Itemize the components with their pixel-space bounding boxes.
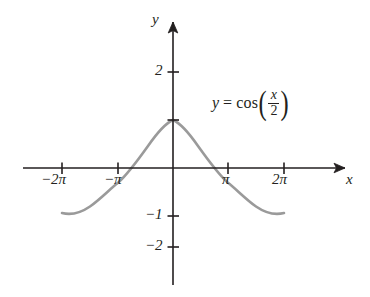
y-tick-label-2: 2 bbox=[155, 63, 163, 78]
equation-fraction: x 2 bbox=[268, 88, 279, 118]
equation-lhs: y bbox=[212, 94, 219, 112]
plot-canvas bbox=[0, 0, 370, 297]
equation-function: cos bbox=[236, 94, 258, 112]
fraction-denominator: 2 bbox=[268, 104, 279, 119]
graph-figure: −2π −π π 2π 2 −1 −2 y x y = cos ( x 2 ) bbox=[0, 0, 370, 297]
equation-close-paren: ) bbox=[281, 89, 289, 116]
equation-equals: = bbox=[223, 94, 232, 112]
equation-annotation: y = cos ( x 2 ) bbox=[212, 88, 290, 118]
y-axis-label: y bbox=[152, 12, 159, 27]
x-tick-label-neg-2pi: −2π bbox=[41, 172, 66, 187]
x-tick-label-2pi: 2π bbox=[272, 172, 287, 187]
y-tick-label-neg-2: −2 bbox=[145, 238, 163, 253]
fraction-numerator: x bbox=[269, 88, 279, 103]
equation-open-paren: ( bbox=[259, 89, 267, 116]
y-tick-label-neg-1: −1 bbox=[145, 207, 163, 222]
x-tick-label-neg-pi: −π bbox=[104, 172, 122, 187]
x-tick-label-pi: π bbox=[222, 172, 230, 187]
x-axis-label: x bbox=[346, 172, 353, 187]
